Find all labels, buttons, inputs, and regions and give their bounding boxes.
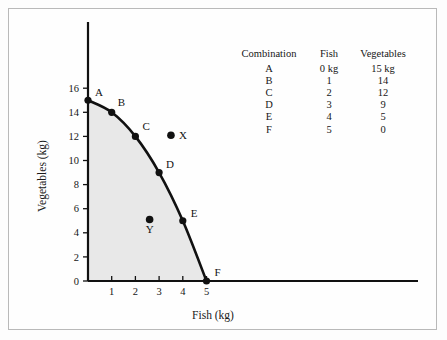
table-row: A0 kg15 kg	[232, 62, 414, 74]
cell-vegetables: 9	[352, 99, 414, 111]
cell-combination: C	[232, 86, 306, 98]
svg-text:4: 4	[74, 227, 80, 238]
svg-text:X: X	[179, 129, 187, 141]
cell-fish: 3	[306, 99, 352, 111]
svg-text:8: 8	[74, 179, 79, 190]
y-axis-title: Vegetables (kg)	[36, 121, 48, 231]
table-header-row: Combination Fish Vegetables	[232, 48, 414, 62]
svg-text:10: 10	[69, 155, 80, 166]
svg-text:A: A	[95, 86, 103, 98]
table-row: F50	[232, 123, 414, 135]
combinations-table: Combination Fish Vegetables A0 kg15 kgB1…	[232, 48, 414, 135]
figure-page: 024681012141612345 ABCDEF XY Vegetables …	[0, 0, 447, 340]
svg-text:3: 3	[156, 286, 161, 297]
cell-vegetables: 12	[352, 86, 414, 98]
cell-combination: B	[232, 74, 306, 86]
cell-combination: A	[232, 62, 306, 74]
svg-text:2: 2	[133, 286, 138, 297]
svg-text:0: 0	[74, 276, 79, 287]
table-row: C212	[232, 86, 414, 98]
svg-text:5: 5	[204, 286, 209, 297]
svg-text:1: 1	[109, 286, 114, 297]
svg-text:6: 6	[74, 203, 79, 214]
svg-text:4: 4	[180, 286, 186, 297]
table-row: B114	[232, 74, 414, 86]
svg-text:16: 16	[69, 83, 80, 94]
svg-text:B: B	[118, 96, 125, 108]
x-axis-title: Fish (kg)	[168, 309, 258, 321]
header-fish: Fish	[306, 48, 352, 62]
cell-fish: 1	[306, 74, 352, 86]
cell-vegetables: 15 kg	[352, 62, 414, 74]
svg-text:12: 12	[69, 131, 80, 142]
cell-fish: 0 kg	[306, 62, 352, 74]
cell-combination: D	[232, 99, 306, 111]
cell-fish: 4	[306, 111, 352, 123]
header-combination: Combination	[232, 48, 306, 62]
svg-text:C: C	[142, 120, 149, 132]
cell-vegetables: 5	[352, 111, 414, 123]
cell-vegetables: 0	[352, 123, 414, 135]
cell-fish: 2	[306, 86, 352, 98]
table-row: E45	[232, 111, 414, 123]
svg-text:F: F	[215, 266, 221, 278]
table-body: A0 kg15 kgB114C212D39E45F50	[232, 62, 414, 135]
cell-combination: F	[232, 123, 306, 135]
svg-text:D: D	[166, 158, 174, 170]
svg-text:Y: Y	[146, 223, 154, 235]
cell-combination: E	[232, 111, 306, 123]
svg-text:2: 2	[74, 252, 79, 263]
cell-vegetables: 14	[352, 74, 414, 86]
svg-text:14: 14	[69, 107, 80, 118]
table-row: D39	[232, 99, 414, 111]
cell-fish: 5	[306, 123, 352, 135]
svg-text:E: E	[191, 207, 198, 219]
header-vegetables: Vegetables	[352, 48, 414, 62]
